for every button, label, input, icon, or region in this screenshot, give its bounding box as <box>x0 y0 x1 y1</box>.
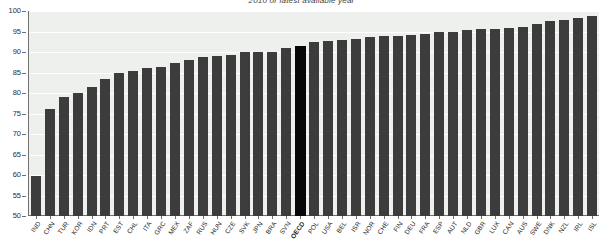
x-axis-tick-mark <box>119 216 120 219</box>
x-axis-tick-label: NOR <box>361 220 375 236</box>
bar-slot <box>126 11 140 216</box>
bar-slot <box>252 11 266 216</box>
x-axis-tick-mark <box>161 216 162 219</box>
x-axis-tick-slot: CAN <box>502 216 516 246</box>
x-axis-tick-label: IDN <box>85 220 97 233</box>
x-axis-tick-mark <box>537 216 538 219</box>
bar <box>212 56 222 216</box>
bar-slot <box>363 11 377 216</box>
bar <box>337 40 347 216</box>
x-axis: INDCHNTURKORIDNPRTESTCHLITAGRCMEXZAFRUSH… <box>29 216 599 246</box>
bar <box>170 63 180 216</box>
bar <box>142 68 152 216</box>
x-axis-tick-mark <box>467 216 468 219</box>
bar <box>240 52 250 216</box>
bar <box>114 73 124 216</box>
bar <box>476 29 486 216</box>
x-axis-tick-slot: AUT <box>446 216 460 246</box>
bar <box>393 36 403 216</box>
x-axis-tick-mark <box>509 216 510 219</box>
x-axis-tick-mark <box>286 216 287 219</box>
x-axis-tick-label: AUT <box>446 220 459 235</box>
bar-slot <box>307 11 321 216</box>
bar <box>198 57 208 216</box>
bar <box>253 52 263 216</box>
x-axis-tick-slot: CHL <box>126 216 140 246</box>
bar <box>156 67 166 216</box>
x-axis-tick-mark <box>495 216 496 219</box>
x-axis-tick-slot: AUS <box>516 216 530 246</box>
bar-slot <box>182 11 196 216</box>
y-axis: 10095908580757065605550 <box>0 11 26 216</box>
bar-slot <box>571 11 585 216</box>
x-axis-tick-mark <box>411 216 412 219</box>
bar <box>379 36 389 216</box>
bar <box>351 39 361 216</box>
x-axis-tick-slot: CHE <box>377 216 391 246</box>
y-axis-tick-label: 55 <box>13 192 21 200</box>
x-axis-tick-mark <box>231 216 232 219</box>
x-axis-tick-label: LUX <box>487 220 500 235</box>
x-axis-tick-label: SWE <box>528 220 542 236</box>
x-axis-tick-slot: CZE <box>224 216 238 246</box>
y-axis-tick-mark <box>22 52 26 53</box>
bar <box>406 35 416 216</box>
x-axis-tick-label: ZAF <box>182 220 195 234</box>
x-axis-tick-slot: HUN <box>210 216 224 246</box>
bar-slot <box>168 11 182 216</box>
y-axis-tick-label: 50 <box>13 212 21 220</box>
bar-slot <box>530 11 544 216</box>
bar-slot <box>293 11 307 216</box>
x-axis-tick-mark <box>439 216 440 219</box>
bar-slot <box>29 11 43 216</box>
bar <box>267 52 277 216</box>
y-axis-tick-label: 65 <box>13 151 21 159</box>
x-axis-tick-mark <box>384 216 385 219</box>
bar <box>31 176 41 216</box>
x-axis-tick-label: MEX <box>167 220 181 236</box>
y-axis-tick-mark <box>22 93 26 94</box>
x-axis-tick-label: PRT <box>98 220 111 235</box>
x-axis-tick-mark <box>175 216 176 219</box>
bar-slot <box>279 11 293 216</box>
bar-slot <box>391 11 405 216</box>
x-axis-tick-slot: GBR <box>474 216 488 246</box>
bar-series <box>29 11 599 216</box>
bar-slot <box>140 11 154 216</box>
x-axis-tick-slot: MEX <box>168 216 182 246</box>
bar-slot <box>349 11 363 216</box>
bar <box>128 71 138 216</box>
bar-slot <box>85 11 99 216</box>
y-axis-tick-mark <box>22 196 26 197</box>
bar <box>559 20 569 216</box>
x-axis-tick-mark <box>147 216 148 219</box>
y-axis-tick-mark <box>22 32 26 33</box>
y-axis-tick-label: 75 <box>13 110 21 118</box>
x-axis-tick-slot: CHN <box>43 216 57 246</box>
x-axis-tick-slot: IRL <box>571 216 585 246</box>
bar-slot <box>432 11 446 216</box>
x-axis-tick-label: AUS <box>515 220 529 235</box>
bar-slot <box>544 11 558 216</box>
bar <box>434 32 444 216</box>
bar <box>462 30 472 216</box>
x-axis-tick-mark <box>258 216 259 219</box>
bar-slot <box>99 11 113 216</box>
x-axis-tick-mark <box>245 216 246 219</box>
x-axis-tick-label: IRL <box>572 220 584 233</box>
x-axis-tick-mark <box>105 216 106 219</box>
bar <box>518 27 528 216</box>
x-axis-tick-mark <box>50 216 51 219</box>
bar-slot <box>460 11 474 216</box>
y-axis-tick-mark <box>22 216 26 217</box>
bar <box>73 93 83 216</box>
x-axis-tick-slot: BEL <box>335 216 349 246</box>
y-axis-tick-mark <box>22 155 26 156</box>
y-axis-tick-label: 70 <box>13 130 21 138</box>
x-axis-tick-label: SVK <box>237 220 250 235</box>
y-axis-tick-label: 85 <box>13 69 21 77</box>
bar-slot <box>71 11 85 216</box>
x-axis-tick-slot: ISL <box>585 216 599 246</box>
x-axis-tick-label: DEU <box>403 220 417 236</box>
bar-slot <box>210 11 224 216</box>
